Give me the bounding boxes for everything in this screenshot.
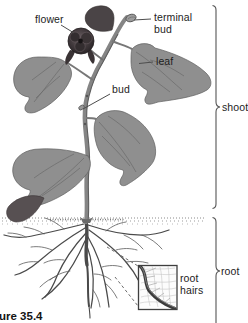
dark-top-leaf	[85, 6, 114, 31]
bud-label: bud	[112, 83, 130, 95]
plant-illustration	[0, 0, 248, 323]
terminal-bud-illustration	[125, 13, 137, 23]
root-hairs-label-line2: hairs	[180, 284, 203, 296]
soil-line	[2, 218, 206, 224]
shoot-brace	[213, 6, 221, 209]
root-hairs-inset	[139, 266, 178, 310]
flower-label: flower	[35, 13, 64, 25]
shoot-label: shoot	[222, 101, 248, 113]
terminal-bud-leader-line	[134, 19, 151, 20]
root-hairs-label: root hairs	[180, 272, 203, 296]
inset-callout-lines	[107, 247, 138, 306]
terminal-bud-label-line1: terminal	[154, 11, 192, 23]
figure-caption: ure 35.4	[0, 310, 42, 322]
root-label: root	[221, 265, 240, 277]
leaf-upper-right	[131, 44, 211, 105]
leaf-label: leaf	[156, 55, 173, 67]
plant-anatomy-diagram: flower terminal bud leaf bud shoot root …	[0, 0, 248, 323]
terminal-bud-label-line2: bud	[154, 23, 192, 35]
root-brace	[213, 218, 221, 323]
leaf-middle-right	[94, 111, 155, 186]
leaves-illustration	[13, 44, 211, 207]
flower-leader-line	[61, 25, 74, 33]
root-hairs-label-line1: root	[180, 272, 203, 284]
braces	[213, 6, 221, 323]
terminal-bud-label: terminal bud	[154, 11, 192, 35]
